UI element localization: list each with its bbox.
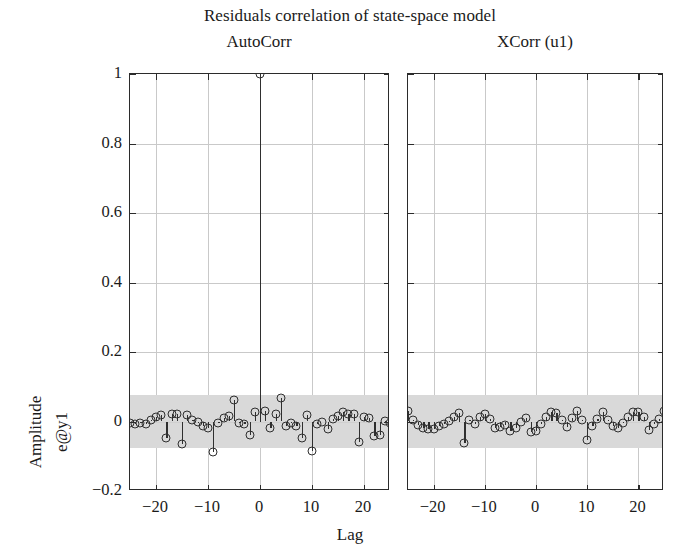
data-point-marker [485,414,494,423]
x-tick-mark [587,485,588,489]
y-tick-mark [658,283,662,284]
x-tick-mark [208,74,209,80]
data-point-marker [578,416,587,425]
y-tick-mark [130,74,136,75]
data-point-marker [224,411,233,420]
data-point-marker [261,407,270,416]
x-tick-mark [364,485,365,489]
x-tick-mark [536,74,537,80]
data-point-marker [250,407,259,416]
data-point-marker [375,431,384,440]
data-point-marker [172,409,181,418]
data-point-marker [455,408,464,417]
grid-line-horizontal [130,283,388,284]
y-axis-tick-labels: −0.200.20.40.60.81 [60,0,122,559]
x-axis-label: Lag [0,525,700,545]
y-tick-mark [130,283,136,284]
data-point-marker [583,436,592,445]
grid-line-horizontal [408,283,662,284]
zero-baseline [130,422,388,423]
x-tick-label: −20 [420,497,446,517]
y-tick-label: 0.4 [101,272,122,292]
x-tick-label: 0 [531,497,539,517]
x-tick-mark [434,485,435,489]
x-tick-mark [312,74,313,80]
x-tick-label: −10 [471,497,497,517]
y-tick-label: −0.2 [92,480,122,500]
data-point-marker [245,431,254,440]
y-tick-mark [384,352,388,353]
y-tick-label: 0.8 [101,133,122,153]
x-tick-mark [638,485,639,489]
data-point-marker [157,411,166,420]
y-tick-mark [384,144,388,145]
y-tick-mark [408,144,414,145]
data-point-marker [572,407,581,416]
x-tick-label: −10 [194,497,220,517]
y-axis-label-line1: Amplitude [26,395,46,468]
data-point-marker [204,423,213,432]
x-tick-label: 20 [629,497,646,517]
data-point-marker [308,447,317,456]
data-point-marker [209,448,218,457]
y-tick-mark [658,144,662,145]
data-point-marker [386,418,389,427]
grid-line-horizontal [130,144,388,145]
x-tick-mark [156,485,157,489]
y-tick-label: 0 [114,411,122,431]
x-tick-mark [536,485,537,489]
data-point-marker [292,421,301,430]
y-tick-label: 0.6 [101,202,122,222]
data-point-marker [266,423,275,432]
data-point-marker [365,414,374,423]
grid-line-horizontal [408,213,662,214]
data-point-marker [276,393,285,402]
grid-line-horizontal [408,144,662,145]
plot-area-xcorr [408,74,662,489]
y-tick-mark [384,74,388,75]
x-tick-mark [156,74,157,80]
y-tick-mark [408,213,414,214]
data-point-marker [639,413,648,422]
data-point-marker [271,409,280,418]
data-point-marker [323,425,332,434]
data-point-marker [521,414,530,423]
x-tick-mark [260,485,261,489]
x-tick-mark [364,74,365,80]
y-tick-mark [130,144,136,145]
y-axis-label: Amplitude e@y1 [14,150,60,410]
y-tick-label: 0.2 [101,341,122,361]
data-point-marker [654,414,662,423]
data-point-marker [562,423,571,432]
plot-axes-autocorr [129,73,389,490]
x-tick-mark [208,485,209,489]
y-tick-label: 1 [114,63,122,83]
data-point-marker [256,74,265,79]
y-tick-mark [384,213,388,214]
x-tick-mark [312,485,313,489]
y-tick-mark [658,213,662,214]
plot-area-autocorr [130,74,388,489]
x-tick-label: −20 [142,497,168,517]
grid-line-horizontal [130,352,388,353]
data-point-marker [230,395,239,404]
x-tick-label: 0 [255,497,263,517]
y-tick-mark [658,352,662,353]
x-tick-label: 10 [303,497,320,517]
y-tick-mark [130,213,136,214]
data-point-marker [354,438,363,447]
subplot-title-xcorr: XCorr (u1) [407,32,663,52]
data-point-marker [240,420,249,429]
data-point-marker [660,407,663,416]
x-tick-mark [434,74,435,80]
y-tick-mark [130,352,136,353]
y-tick-mark [408,74,414,75]
x-tick-label: 20 [355,497,372,517]
figure-root: Residuals correlation of state-space mod… [0,0,700,559]
y-tick-mark [408,352,414,353]
x-tick-mark [638,74,639,80]
y-tick-mark [384,283,388,284]
data-point-marker [297,433,306,442]
y-tick-mark [658,74,662,75]
data-point-marker [349,410,358,419]
